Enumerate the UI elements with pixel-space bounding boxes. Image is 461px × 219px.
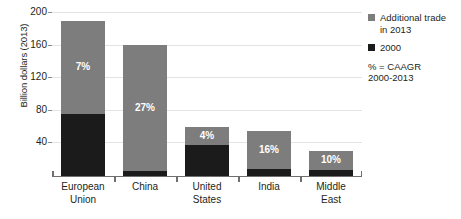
x-axis-label-line1: China [114,181,176,194]
x-axis-line [52,176,362,178]
legend-label-2000: 2000 [380,42,401,54]
bar-caagr-label: 10% [309,155,353,165]
cropped-title [0,0,461,7]
legend: Additional trade in 2013 2000 % = CAAGR … [368,12,461,84]
y-axis-title: Billion dollars (2013) [18,0,29,141]
legend-item-additional-trade: Additional trade in 2013 [368,12,461,35]
bar-segment-2000 [185,145,229,176]
y-axis-tick-120: 120 [30,72,47,82]
bar-china[interactable]: 27% [123,45,167,175]
bar-segment-2000 [61,114,105,176]
x-axis-label-european: EuropeanUnion [52,181,114,219]
x-axis-start-cap [52,171,54,177]
bar-segment-additional-trade: 7% [61,21,105,114]
bar-slot: 27% [114,13,176,176]
bar-segment-additional-trade: 16% [247,131,291,169]
legend-swatch-icon-additional-trade [368,14,375,21]
y-axis-tick-40: 40 [36,137,47,147]
plot-area: 2001601208040 7%27%4%16%10% [52,12,362,177]
legend-note-line1: % = CAAGR [368,61,461,73]
bar-caagr-label: 16% [247,145,291,155]
bar-segment-additional-trade: 27% [123,45,167,171]
x-axis-label-line1: United [176,181,238,194]
x-axis-label-line2: Union [52,194,114,207]
bar-slot: 16% [238,13,300,176]
legend-item-2000: 2000 [368,42,461,54]
bar-caagr-label: 7% [61,62,105,72]
y-axis-tick-200: 200 [30,7,47,17]
x-axis-label-line1: European [52,181,114,194]
bar-european-union[interactable]: 7% [61,21,105,176]
x-axis-label-middle: MiddleEast [300,181,362,219]
bar-caagr-label: 27% [123,103,167,113]
legend-label-additional-trade-line2: in 2013 [380,24,446,36]
legend-swatch-icon-2000 [368,44,375,51]
x-axis-end-cap [361,171,363,177]
bar-segment-additional-trade: 10% [309,151,353,170]
x-axis-labels: EuropeanUnionChinaUnitedStatesIndiaMiddl… [52,181,362,219]
bar-middle-east[interactable]: 10% [309,151,353,175]
bar-caagr-label: 4% [185,131,229,141]
bar-slot: 10% [300,13,362,176]
bar-slot: 7% [52,13,114,176]
bar-united-states[interactable]: 4% [185,127,229,176]
y-axis-tick-160: 160 [30,40,47,50]
legend-note-line2: 2000-2013 [368,72,461,84]
x-axis-label-india: India [238,181,300,219]
stacked-bar-chart: Billion dollars (2013) 2001601208040 7%2… [0,0,461,219]
x-axis-label-united: UnitedStates [176,181,238,219]
bar-slot: 4% [176,13,238,176]
x-axis-label-china: China [114,181,176,219]
legend-note: % = CAAGR 2000-2013 [368,61,461,84]
x-axis-label-line1: Middle [300,181,362,194]
x-axis-label-line2: States [176,194,238,207]
x-axis-label-line2: East [300,194,362,207]
bar-group: 7%27%4%16%10% [52,13,362,176]
bar-segment-additional-trade: 4% [185,127,229,145]
x-axis-label-line1: India [238,181,300,194]
legend-label-additional-trade-line1: Additional trade [380,12,446,24]
bar-india[interactable]: 16% [247,131,291,176]
y-axis-tick-80: 80 [36,105,47,115]
